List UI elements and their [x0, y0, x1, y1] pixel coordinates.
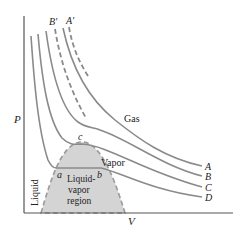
- axis-label-p: P: [13, 113, 21, 125]
- region-label-liquid-vapor-1: Liquid-: [67, 174, 96, 184]
- point-label-a: a: [57, 169, 62, 180]
- label-a-prime: A′: [65, 15, 75, 26]
- region-label-liquid: Liquid: [29, 179, 40, 206]
- label-b: B: [205, 171, 211, 182]
- axis-label-v: V: [128, 215, 136, 227]
- ideal-curve-b-prime: [55, 29, 86, 118]
- label-b-prime: B′: [49, 16, 58, 27]
- label-d: D: [204, 192, 213, 203]
- point-label-b: b: [97, 169, 102, 180]
- region-label-liquid-vapor-3: region: [67, 196, 92, 206]
- pv-diagram: P V B′ A′ A B C D Gas Vapor Liquid Liqui…: [0, 0, 243, 230]
- region-label-vapor: Vapor: [101, 157, 126, 168]
- region-label-liquid-vapor-2: vapor: [68, 185, 90, 195]
- point-label-c: c: [78, 131, 83, 142]
- region-label-gas: Gas: [124, 113, 140, 124]
- ideal-curve-a-prime: [69, 27, 88, 76]
